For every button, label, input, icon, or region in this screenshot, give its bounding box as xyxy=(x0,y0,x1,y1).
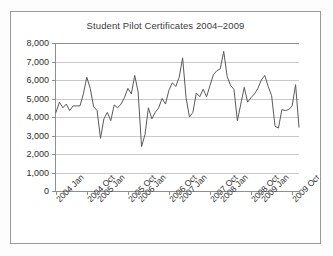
series-svg xyxy=(56,43,299,191)
y-tick-label-4000: 4,000 xyxy=(5,112,49,122)
y-tick-label-1000: 1,000 xyxy=(5,168,49,178)
y-tick-label-0: 0 xyxy=(5,186,49,196)
y-tick-label-3000: 3,000 xyxy=(5,131,49,141)
series-line-student-pilot-certificates xyxy=(56,51,299,146)
y-tick-label-6000: 6,000 xyxy=(5,75,49,85)
y-tick-label-5000: 5,000 xyxy=(5,94,49,104)
y-tick-label-8000: 8,000 xyxy=(5,38,49,48)
chart-screenshot: Student Pilot Certificates 2004–2009 8,0… xyxy=(0,0,333,256)
chart-title: Student Pilot Certificates 2004–2009 xyxy=(11,20,320,31)
y-tick-label-2000: 2,000 xyxy=(5,149,49,159)
y-tick-label-7000: 7,000 xyxy=(5,57,49,67)
plot-area: 8,0007,0006,0005,0004,0003,0002,0001,000… xyxy=(56,43,299,191)
chart-frame: Student Pilot Certificates 2004–2009 8,0… xyxy=(10,11,321,244)
